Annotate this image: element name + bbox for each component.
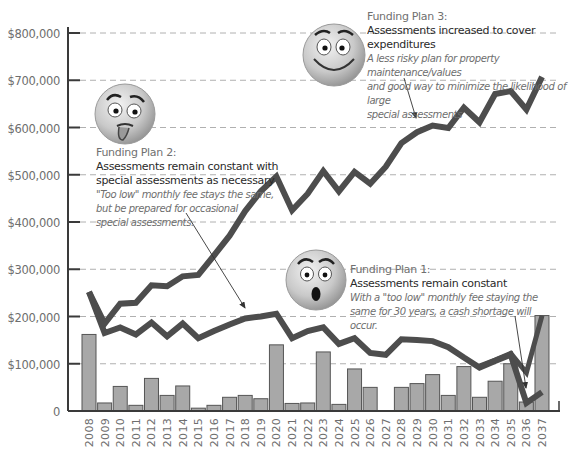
x-tick-label: 2022 xyxy=(302,418,315,447)
x-tick-label: 2024 xyxy=(333,418,346,447)
x-tick-label: 2037 xyxy=(536,418,549,447)
bar xyxy=(457,367,471,411)
x-tick-label: 2013 xyxy=(161,418,174,447)
line-series xyxy=(89,77,542,403)
shocked-face-icon xyxy=(286,250,346,310)
bar xyxy=(160,395,174,411)
plan2-desc-line1: "Too low" monthly fee stays the same, xyxy=(96,188,296,202)
bar xyxy=(144,378,158,411)
x-axis-tick-labels: 2008200920102011201220132014201520162017… xyxy=(83,418,549,447)
x-tick-label: 2016 xyxy=(208,418,221,447)
plan3-headline: Assessments increased to cover expenditu… xyxy=(367,24,572,52)
bar xyxy=(301,403,315,411)
plan1-label: Funding Plan 1: xyxy=(350,263,560,277)
bar xyxy=(98,403,112,411)
y-tick-label: $100,000 xyxy=(8,358,60,372)
bar xyxy=(223,397,237,411)
x-tick-label: 2017 xyxy=(224,418,237,447)
plan2-annotation: Funding Plan 2: Assessments remain const… xyxy=(96,146,296,230)
x-tick-label: 2034 xyxy=(489,418,502,447)
bar xyxy=(488,381,502,411)
bar xyxy=(441,395,455,411)
plan3-desc-line2: and good way to minimize the likelihood … xyxy=(367,80,572,108)
bar xyxy=(82,334,96,411)
x-tick-label: 2023 xyxy=(317,418,330,447)
plan2-label: Funding Plan 2: xyxy=(96,146,296,160)
y-tick-label: $200,000 xyxy=(8,311,60,325)
plan2-headline-line2: special assessments as necessary xyxy=(96,174,296,188)
bar xyxy=(426,375,440,411)
plan1-headline: Assessments remain constant xyxy=(350,277,560,291)
plan3-label: Funding Plan 3: xyxy=(367,10,572,24)
plan2-desc-line3: special assessments. xyxy=(96,216,296,230)
plan2-desc-line2: but be prepared for occasional xyxy=(96,202,296,216)
bar xyxy=(363,387,377,411)
x-tick-label: 2019 xyxy=(255,418,268,447)
y-tick-label: 0 xyxy=(53,405,60,419)
bar xyxy=(316,352,330,411)
x-tick-label: 2011 xyxy=(130,418,143,447)
x-tick-label: 2030 xyxy=(427,418,440,447)
plan3-desc-line3: special assessments xyxy=(367,108,572,122)
bar xyxy=(285,403,299,411)
x-tick-label: 2028 xyxy=(395,418,408,447)
x-tick-label: 2026 xyxy=(364,418,377,447)
plan3-desc-line1: A less risky plan for property maintenan… xyxy=(367,52,572,80)
bar xyxy=(410,384,424,411)
bar xyxy=(254,399,268,411)
plan2-headline-line1: Assessments remain constant with xyxy=(96,160,296,174)
y-tick-label: $800,000 xyxy=(8,27,60,41)
bar xyxy=(348,369,362,411)
bar xyxy=(113,386,127,411)
y-axis-tick-labels: 0$100,000$200,000$300,000$400,000$500,00… xyxy=(8,27,60,419)
bar xyxy=(176,386,190,411)
plan3-annotation: Funding Plan 3: Assessments increased to… xyxy=(367,10,572,122)
x-tick-label: 2029 xyxy=(411,418,424,447)
x-tick-label: 2012 xyxy=(145,418,158,447)
plan1-annotation: Funding Plan 1: Assessments remain const… xyxy=(350,263,560,333)
x-tick-label: 2031 xyxy=(442,418,455,447)
x-tick-label: 2033 xyxy=(474,418,487,447)
x-tick-label: 2010 xyxy=(114,418,127,447)
bar xyxy=(269,345,283,411)
bar xyxy=(394,387,408,411)
y-tick-label: $400,000 xyxy=(8,216,60,230)
x-tick-label: 2035 xyxy=(505,418,518,447)
x-tick-label: 2018 xyxy=(239,418,252,447)
plan1-desc-line2: same for 30 years, a cash shortage will … xyxy=(350,305,560,333)
worried-face-icon xyxy=(95,84,155,144)
y-tick-label: $500,000 xyxy=(8,169,60,183)
plan1-desc-line1: With a "too low" monthly fee staying the xyxy=(350,291,560,305)
bar xyxy=(473,397,487,411)
happy-face-icon xyxy=(303,24,365,86)
x-tick-label: 2032 xyxy=(458,418,471,447)
x-tick-label: 2027 xyxy=(380,418,393,447)
x-tick-label: 2021 xyxy=(286,418,299,447)
y-tick-label: $300,000 xyxy=(8,263,60,277)
x-tick-label: 2025 xyxy=(349,418,362,447)
x-tick-label: 2020 xyxy=(270,418,283,447)
y-tick-label: $600,000 xyxy=(8,122,60,136)
x-tick-label: 2014 xyxy=(177,418,190,447)
x-tick-label: 2008 xyxy=(83,418,96,447)
x-tick-label: 2009 xyxy=(99,418,112,447)
y-tick-label: $700,000 xyxy=(8,74,60,88)
bar xyxy=(238,395,252,411)
x-tick-label: 2015 xyxy=(192,418,205,447)
x-tick-label: 2036 xyxy=(520,418,533,447)
